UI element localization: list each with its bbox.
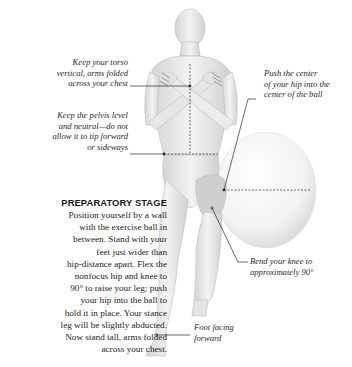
preparatory-stage-body: Position yourself by a wall with the exe… bbox=[0, 209, 167, 355]
annotation-knee: Bend your knee to approximately 90° bbox=[250, 256, 350, 277]
annotation-pelvis: Keep the pelvis level and neutral—do not… bbox=[24, 110, 128, 152]
preparatory-stage-title: PREPARATORY STAGE bbox=[40, 197, 167, 208]
annotation-foot: Foot facing forward bbox=[194, 322, 254, 343]
annotation-hip: Push the center of your hip into the cen… bbox=[264, 68, 352, 100]
annotation-torso: Keep your torso vertical, arms folded ac… bbox=[34, 57, 128, 89]
